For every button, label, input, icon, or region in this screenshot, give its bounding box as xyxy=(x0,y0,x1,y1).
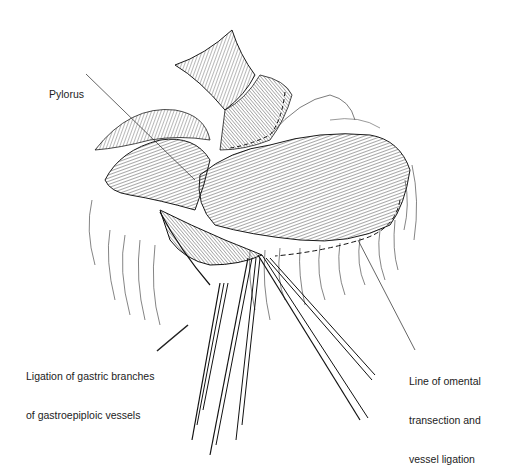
label-ligation-line-1: Ligation of gastric branches xyxy=(26,370,154,383)
omental-leader xyxy=(358,240,415,350)
label-pylorus: Pylorus xyxy=(49,62,84,127)
surgical-clamps xyxy=(192,255,375,455)
label-omental-transection: Line of omental transection and vessel l… xyxy=(409,349,481,468)
label-pylorus-line: Pylorus xyxy=(49,88,84,101)
label-ligation-line-2: of gastroepiploic vessels xyxy=(26,409,154,422)
surgical-illustration: Pylorus Ligation of gastric branches of … xyxy=(0,0,510,468)
antrum xyxy=(95,110,210,211)
label-omental-line-1: Line of omental xyxy=(409,375,481,388)
label-omental-line-3: vessel ligation xyxy=(409,453,481,466)
label-omental-line-2: transection and xyxy=(409,414,481,427)
label-ligation: Ligation of gastric branches of gastroep… xyxy=(26,344,154,448)
ligation-leader xyxy=(157,325,188,351)
